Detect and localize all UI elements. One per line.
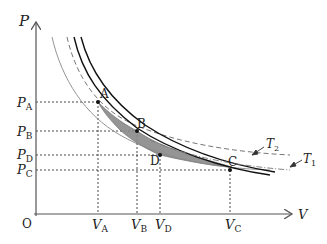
x-tick-vd: VD (155, 217, 172, 234)
curve-label-t1: T1 (303, 152, 316, 168)
point-label-c: C (228, 155, 237, 169)
x-tick-vb: VB (131, 217, 147, 234)
point-label-d: D (150, 154, 160, 168)
x-tick-va: VA (92, 217, 108, 234)
y-tick-pb: PB (16, 124, 33, 141)
y-tick-pc: PC (16, 162, 33, 179)
pv-diagram: P V O PA PB PD PC VA VB VD VC A B C D T2… (0, 0, 327, 244)
x-axis-label: V (298, 207, 309, 222)
y-axis-label: P (18, 12, 30, 30)
x-tick-vc: VC (225, 217, 241, 234)
curve-label-t2: T2 (266, 137, 279, 153)
point-label-b: B (137, 117, 146, 131)
origin-label: O (22, 217, 32, 231)
y-tick-pa: PA (16, 95, 33, 112)
point-label-a: A (99, 87, 109, 101)
